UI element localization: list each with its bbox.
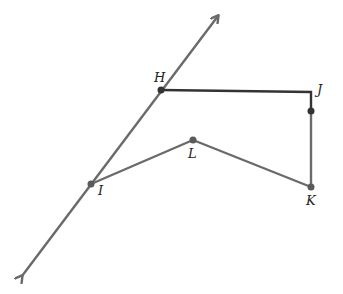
- label-l: L: [187, 146, 197, 161]
- label-i: I: [97, 183, 104, 198]
- segment-li: [91, 140, 193, 184]
- point-j: [308, 108, 315, 115]
- geometry-diagram: H J K L I: [0, 0, 343, 294]
- segment-kl: [193, 140, 311, 187]
- label-h: H: [153, 70, 166, 85]
- point-l: [190, 137, 197, 144]
- point-i: [88, 181, 95, 188]
- point-k: [308, 184, 315, 191]
- point-h: [158, 87, 165, 94]
- label-k: K: [305, 193, 317, 208]
- label-j: J: [314, 82, 323, 97]
- segment-hj: [161, 90, 311, 111]
